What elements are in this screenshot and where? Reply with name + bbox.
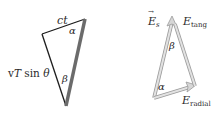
label-beta-left: β (61, 73, 68, 84)
label-alpha-left: α (69, 25, 76, 36)
field-geometry-diagram: ct α β vT sin θ Es → Etang β α Eradial (0, 0, 222, 114)
label-es: Es (147, 15, 160, 29)
label-vt-sin-theta: vT sin θ (7, 67, 50, 79)
label-alpha-right: α (158, 81, 165, 92)
label-es-sub: s (156, 21, 160, 29)
left-triangle: ct α β vT sin θ (7, 14, 85, 106)
label-tang-sub: tang (191, 21, 207, 29)
label-ct: ct (57, 14, 68, 27)
label-tang: Etang (182, 15, 208, 29)
label-radial-sub: radial (190, 100, 211, 108)
label-v: v (7, 67, 14, 79)
label-radial-main: E (181, 94, 190, 107)
label-sin: sin (21, 67, 43, 79)
vector-tang (175, 24, 195, 86)
label-tang-main: E (182, 15, 191, 28)
label-es-arrow: → (148, 8, 154, 16)
label-theta: θ (43, 67, 50, 79)
label-es-main: E (147, 15, 156, 28)
label-radial: Eradial (181, 94, 211, 108)
right-triangle-vectors: Es → Etang β α Eradial (147, 8, 211, 108)
label-beta-right: β (168, 40, 175, 51)
